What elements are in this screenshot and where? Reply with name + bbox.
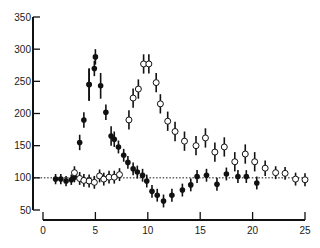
y-axis: 50100150200250300350 bbox=[14, 12, 40, 216]
x-tick-label: 0 bbox=[40, 225, 46, 236]
data-point-open bbox=[181, 138, 187, 144]
data-point-filled bbox=[161, 198, 167, 204]
data-point-open bbox=[146, 61, 152, 67]
scatter-chart: 50100150200250300350 0510152025 bbox=[0, 0, 320, 248]
data-point-filled bbox=[144, 178, 150, 184]
data-point-filled bbox=[93, 54, 99, 60]
data-point-open bbox=[172, 129, 178, 135]
data-point-filled bbox=[204, 172, 210, 178]
data-point-open bbox=[193, 143, 199, 149]
data-point-filled bbox=[111, 136, 117, 142]
data-point-open bbox=[242, 151, 248, 157]
data-point-filled bbox=[149, 189, 155, 195]
data-point-open bbox=[153, 80, 159, 86]
y-tick-label: 100 bbox=[14, 172, 31, 183]
data-point-filled bbox=[63, 178, 69, 184]
data-point-filled bbox=[169, 192, 175, 198]
data-point-open bbox=[202, 135, 208, 141]
x-tick-label: 20 bbox=[247, 225, 259, 236]
x-tick-label: 10 bbox=[142, 225, 154, 236]
series-open bbox=[71, 54, 308, 188]
data-point-filled bbox=[194, 174, 200, 180]
data-point-open bbox=[293, 176, 299, 182]
y-tick-label: 200 bbox=[14, 108, 31, 119]
data-point-filled bbox=[180, 187, 186, 193]
data-point-filled bbox=[116, 144, 122, 150]
x-tick-label: 15 bbox=[195, 225, 207, 236]
y-tick-label: 250 bbox=[14, 76, 31, 87]
data-point-filled bbox=[77, 140, 83, 146]
data-point-open bbox=[212, 149, 218, 155]
data-point-open bbox=[91, 179, 97, 185]
data-point-open bbox=[157, 101, 163, 107]
data-point-filled bbox=[86, 82, 92, 88]
data-point-filled bbox=[224, 171, 230, 177]
y-tick-label: 300 bbox=[14, 44, 31, 55]
data-point-filled bbox=[244, 174, 250, 180]
data-point-open bbox=[71, 170, 77, 176]
data-point-open bbox=[117, 172, 123, 178]
data-point-filled bbox=[235, 174, 241, 180]
x-axis: 0510152025 bbox=[40, 212, 311, 236]
data-point-open bbox=[135, 86, 141, 92]
x-tick-label: 25 bbox=[299, 225, 311, 236]
data-point-open bbox=[232, 159, 238, 165]
y-tick-label: 150 bbox=[14, 140, 31, 151]
data-point-filled bbox=[214, 181, 220, 187]
data-point-filled bbox=[58, 176, 64, 182]
data-point-open bbox=[165, 118, 171, 124]
data-point-filled bbox=[98, 83, 104, 89]
data-point-open bbox=[130, 95, 136, 101]
data-point-open bbox=[273, 170, 279, 176]
data-point-open bbox=[126, 117, 132, 123]
data-point-filled bbox=[135, 169, 141, 175]
data-point-filled bbox=[140, 172, 146, 178]
data-point-open bbox=[221, 144, 227, 150]
data-point-filled bbox=[103, 109, 109, 115]
data-point-filled bbox=[121, 153, 127, 159]
data-point-filled bbox=[81, 117, 87, 123]
data-point-open bbox=[302, 177, 308, 183]
data-point-open bbox=[262, 165, 268, 171]
y-tick-label: 350 bbox=[14, 12, 31, 23]
series-layer bbox=[53, 49, 308, 207]
data-point-filled bbox=[53, 176, 59, 182]
data-point-open bbox=[282, 170, 288, 176]
x-tick-label: 5 bbox=[93, 225, 99, 236]
data-point-filled bbox=[154, 192, 160, 198]
data-point-filled bbox=[125, 160, 131, 166]
data-point-filled bbox=[92, 66, 98, 72]
data-point-filled bbox=[188, 182, 194, 188]
y-tick-label: 50 bbox=[20, 205, 32, 216]
data-point-filled bbox=[254, 180, 260, 186]
data-point-open bbox=[252, 159, 258, 165]
